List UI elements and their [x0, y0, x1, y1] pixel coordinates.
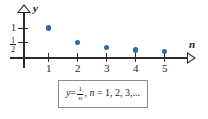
y-axis-arrowhead-inner — [19, 6, 29, 12]
x-tick-3 — [106, 53, 107, 62]
formula-n-symbol: n — [89, 87, 94, 98]
formula-text: y=1n, n = 1, 2, 3,... — [66, 86, 140, 102]
y-tick-label-one-half: 1 2 — [5, 37, 16, 54]
y-tick-label-1: 1 — [5, 23, 16, 33]
fraction-one-half: 1 2 — [10, 37, 16, 54]
formula-sequence: 1, 2, 3,... — [105, 87, 140, 98]
x-tick-label-5: 5 — [158, 63, 172, 74]
y-axis-line — [23, 12, 25, 68]
data-point — [133, 47, 138, 52]
data-point — [75, 40, 80, 45]
formula-fraction-denominator: n — [77, 95, 84, 102]
data-point — [104, 45, 109, 50]
formula-comma: , — [84, 87, 87, 98]
x-axis-label: n — [189, 39, 195, 50]
x-tick-label-2: 2 — [71, 63, 85, 74]
fraction-denominator: 2 — [10, 45, 16, 53]
formula-equals-2: = — [97, 87, 103, 98]
x-tick-label-1: 1 — [42, 63, 56, 74]
y-tick-1 — [18, 28, 28, 29]
fraction-numerator: 1 — [10, 37, 16, 46]
x-axis-line — [10, 57, 188, 59]
x-tick-2 — [77, 53, 78, 62]
data-point — [46, 25, 51, 30]
x-tick-label-3: 3 — [100, 63, 114, 74]
harmonic-sequence-figure: y n 1 1 2 1 2 3 4 5 y=1n, n = 1, 2, 3,..… — [0, 0, 208, 119]
data-point — [162, 49, 167, 54]
y-tick-one-half — [18, 42, 28, 43]
x-tick-label-4: 4 — [129, 63, 143, 74]
formula-fraction: 1n — [77, 86, 84, 102]
y-axis-label: y — [33, 3, 38, 14]
formula-equals: = — [70, 87, 76, 98]
x-axis-arrowhead-inner — [188, 54, 194, 62]
x-tick-1 — [48, 53, 49, 62]
formula-box: y=1n, n = 1, 2, 3,... — [58, 80, 148, 108]
x-tick-4 — [135, 53, 136, 62]
